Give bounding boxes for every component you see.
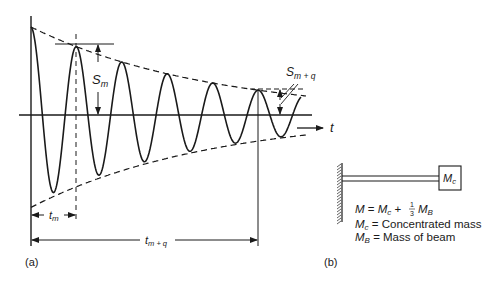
wall-hatching	[337, 164, 341, 224]
beam-mass-symbol: MB	[418, 203, 434, 217]
lower-envelope-dashed	[31, 135, 306, 207]
s-m-label: Sm	[92, 72, 109, 89]
fraction-numerator: 1	[410, 201, 414, 208]
time-axis-label: t	[330, 120, 335, 135]
fraction-denominator: 3	[410, 210, 414, 217]
panel-b-caption: (b)	[324, 256, 337, 268]
upper-envelope-dashed	[31, 27, 306, 96]
s-mq-label: Sm + q	[286, 65, 316, 81]
panel-a-caption: (a)	[25, 256, 38, 268]
effective-mass-formula: M = Mc +	[355, 203, 401, 217]
t-m-label: tm	[49, 209, 59, 223]
panel-a-damped-oscillation: Sm Sm + q t tm tm + q (a)	[19, 16, 335, 268]
legend-concentrated-mass: Mc = Concentrated mass	[355, 218, 482, 232]
damped-sine-wave	[31, 27, 301, 193]
t-mq-label: tm + q	[145, 234, 168, 248]
panel-b-cantilever: Mc M = Mc + 1 3 MB Mc = Concentrated mas…	[324, 163, 482, 268]
diagram-canvas: Sm Sm + q t tm tm + q (a) Mc M = Mc	[0, 0, 486, 281]
legend-beam-mass: MB = Mass of beam	[355, 231, 455, 245]
